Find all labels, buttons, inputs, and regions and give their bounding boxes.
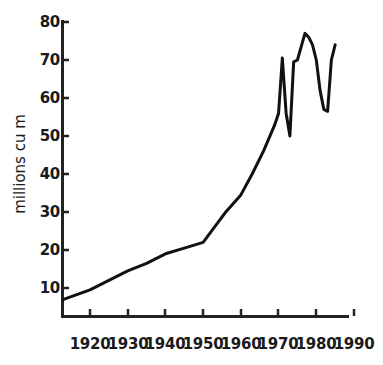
plot-area xyxy=(0,0,383,365)
chart-figure: millions cu m 80 70 60 50 40 30 20 10 19… xyxy=(0,0,383,365)
data-series-line xyxy=(64,33,336,299)
x-tick-marks xyxy=(90,309,354,316)
